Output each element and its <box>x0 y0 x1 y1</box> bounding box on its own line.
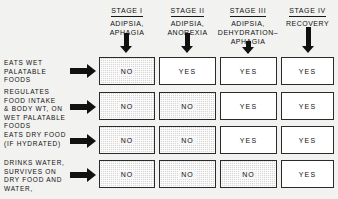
arrow-right-icon <box>70 134 96 147</box>
arrow-down-icon <box>302 27 314 53</box>
cell-value: YES <box>238 68 259 75</box>
column-stage-label: STAGE II <box>171 6 205 17</box>
table-cell: YES <box>220 92 277 120</box>
cell-value: YES <box>238 137 259 144</box>
cell-value: NO <box>179 171 196 178</box>
cell-value: YES <box>297 103 318 110</box>
cell-value: NO <box>119 171 136 178</box>
table-cell: NO <box>99 92 155 120</box>
cell-value: NO <box>179 137 196 144</box>
lateral-hypothalamic-stages-figure: STAGE I ADIPSIA, APHAGIA STAGE II ADIPSI… <box>0 0 338 199</box>
table-cell: YES <box>281 57 334 85</box>
column-stage-label: STAGE I <box>111 6 142 17</box>
cell-value: YES <box>177 68 198 75</box>
table-cell: YES <box>281 92 334 120</box>
arrow-down-icon <box>242 41 254 54</box>
cell-value: NO <box>119 68 136 75</box>
column-header-stage-2: STAGE II ADIPSIA, ANOREXIA <box>159 3 216 37</box>
row-label-regulates-food-intake: REGULATES FOOD INTAKE & BODY WT, ON WET … <box>4 88 72 131</box>
column-header-stage-1: STAGE I ADIPSIA, APHAGIA <box>99 3 155 37</box>
cell-value: NO <box>119 103 136 110</box>
table-cell: NO <box>159 160 216 188</box>
table-cell: NO <box>99 57 155 85</box>
arrow-right-icon <box>70 168 96 181</box>
table-cell: YES <box>159 57 216 85</box>
arrow-right-icon <box>70 100 96 113</box>
arrow-right-icon <box>70 64 96 77</box>
column-stage-label: STAGE III <box>230 6 266 17</box>
table-cell: NO <box>159 126 216 154</box>
cell-value: NO <box>179 103 196 110</box>
cell-value: NO <box>240 171 257 178</box>
row-label-drinks-water: DRINKS WATER, SURVIVES ON DRY FOOD AND W… <box>4 159 72 193</box>
arrow-down-icon <box>181 33 193 53</box>
table-cell: NO <box>99 160 155 188</box>
cell-value: NO <box>119 137 136 144</box>
cell-value: YES <box>238 103 259 110</box>
arrow-down-icon <box>120 33 132 53</box>
table-cell: NO <box>99 126 155 154</box>
table-cell: YES <box>220 126 277 154</box>
row-label-eats-dry-food: EATS DRY FOOD (IF HYDRATED) <box>4 131 72 148</box>
column-stage-label: STAGE IV <box>289 6 326 17</box>
cell-value: YES <box>297 171 318 178</box>
table-cell: YES <box>220 57 277 85</box>
table-cell: NO <box>220 160 277 188</box>
cell-value: YES <box>297 137 318 144</box>
table-cell: YES <box>281 160 334 188</box>
column-header-stage-4: STAGE IV RECOVERY <box>281 3 334 28</box>
row-label-eats-wet-palatable-foods: EATS WET PALATABLE FOODS <box>4 59 72 85</box>
column-header-stage-3: STAGE III ADIPSIA, DEHYDRATION– APHAGIA <box>217 3 279 46</box>
table-cell: YES <box>281 126 334 154</box>
cell-value: YES <box>297 68 318 75</box>
table-cell: NO <box>159 92 216 120</box>
